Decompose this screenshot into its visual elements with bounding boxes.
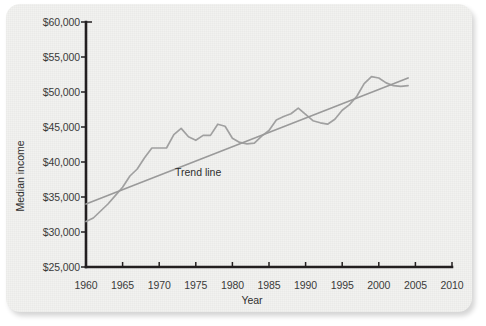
xtick-label-2000: 2000 (359, 279, 399, 291)
trend-line-annotation: Trend line (175, 166, 221, 178)
xtick-label-1980: 1980 (212, 279, 252, 291)
xtick-label-1975: 1975 (176, 279, 216, 291)
trend-line-path (86, 78, 408, 204)
ytick-label-60000: $60,000 (16, 16, 80, 28)
xtick-label-1990: 1990 (286, 279, 326, 291)
xtick-label-1995: 1995 (322, 279, 362, 291)
xtick-label-1960: 1960 (66, 279, 106, 291)
data-line-path (86, 77, 408, 222)
ytick-label-30000: $30,000 (16, 226, 80, 238)
chart-card: $60,000 $55,000 $50,000 $45,000 $40,000 … (6, 4, 472, 312)
xtick-label-1965: 1965 (103, 279, 143, 291)
ytick-label-50000: $50,000 (16, 86, 80, 98)
ytick-label-55000: $55,000 (16, 51, 80, 63)
xtick-label-2005: 2005 (395, 279, 435, 291)
xtick-label-1970: 1970 (139, 279, 179, 291)
xtick-label-1985: 1985 (249, 279, 289, 291)
xtick-label-2010: 2010 (432, 279, 472, 291)
x-axis-title: Year (232, 294, 272, 306)
y-axis-title: Median income (14, 128, 26, 224)
ytick-label-25000: $25,000 (16, 261, 80, 273)
